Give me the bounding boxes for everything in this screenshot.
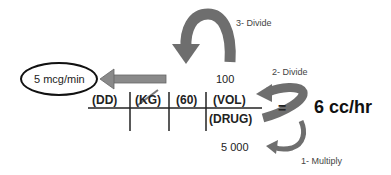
step-3-label: 3- Divide	[236, 18, 272, 28]
bottom-value: 5 000	[221, 141, 249, 153]
left-arrow-icon	[100, 69, 166, 89]
term-drug: (DRUG)	[209, 112, 252, 126]
term-vol: (VOL)	[213, 93, 246, 107]
given-rate: 6 cc/hr	[314, 97, 372, 118]
term-sixty: (60)	[176, 93, 197, 107]
curved-arrow-step1-icon	[266, 121, 304, 154]
equals-sign: =	[278, 100, 286, 116]
result-value: 5 mcg/min	[34, 73, 85, 85]
term-dd: (DD)	[92, 93, 117, 107]
term-kg: (KG)	[135, 93, 161, 107]
curved-arrow-step3-icon	[172, 14, 230, 64]
step-1-label: 1- Multiply	[301, 156, 342, 166]
top-value: 100	[216, 73, 234, 85]
step-2-label: 2- Divide	[272, 67, 308, 77]
